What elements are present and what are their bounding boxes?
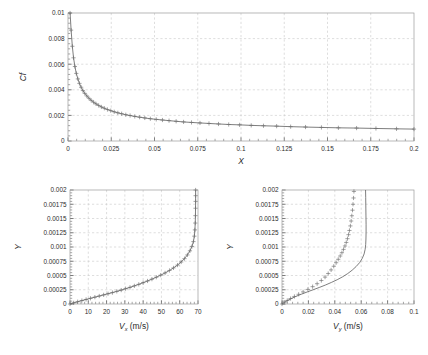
svg-text:20: 20: [103, 308, 111, 315]
svg-text:0.02: 0.02: [302, 308, 315, 315]
svg-text:0.15: 0.15: [321, 145, 334, 152]
chart-y-vs-vy: 00.020.040.060.080.100.000250.00050.0007…: [210, 182, 428, 355]
svg-text:0.00125: 0.00125: [43, 229, 67, 236]
svg-text:Y: Y: [13, 243, 23, 250]
svg-text:Vx (m/s): Vx (m/s): [119, 321, 149, 332]
svg-text:Vy (m/s): Vy (m/s): [333, 321, 363, 332]
figure-container: 00.0250.050.0750.10.1250.150.1750.200.00…: [0, 0, 428, 355]
svg-text:0.00025: 0.00025: [255, 286, 279, 293]
svg-text:0: 0: [68, 308, 72, 315]
svg-text:0.025: 0.025: [103, 145, 119, 152]
svg-text:0.05: 0.05: [148, 145, 161, 152]
svg-text:0.175: 0.175: [363, 145, 379, 152]
svg-text:0.002: 0.002: [51, 186, 67, 193]
svg-text:60: 60: [176, 308, 184, 315]
svg-text:0.06: 0.06: [355, 308, 368, 315]
svg-text:0.04: 0.04: [329, 308, 342, 315]
svg-text:0.0005: 0.0005: [259, 272, 279, 279]
svg-text:70: 70: [194, 308, 202, 315]
svg-text:0.006: 0.006: [49, 61, 65, 68]
svg-text:0: 0: [66, 145, 70, 152]
svg-text:0.00075: 0.00075: [43, 258, 67, 265]
svg-text:50: 50: [158, 308, 166, 315]
svg-text:0.001: 0.001: [263, 243, 279, 250]
svg-text:0: 0: [63, 300, 67, 307]
chart-cf-vs-x: 00.0250.050.0750.10.1250.150.1750.200.00…: [0, 0, 428, 182]
svg-text:0.002: 0.002: [49, 112, 65, 119]
svg-text:0.075: 0.075: [190, 145, 206, 152]
svg-text:Y: Y: [225, 243, 235, 250]
svg-text:0.08: 0.08: [381, 308, 394, 315]
svg-text:X: X: [237, 156, 244, 166]
svg-text:Cf: Cf: [18, 71, 28, 81]
svg-text:0.00025: 0.00025: [43, 286, 67, 293]
svg-text:0.00175: 0.00175: [255, 201, 279, 208]
svg-text:0.002: 0.002: [263, 186, 279, 193]
svg-text:0: 0: [275, 300, 279, 307]
chart-y-vs-vx: 01020304050607000.000250.00050.000750.00…: [0, 182, 212, 355]
svg-text:0.1: 0.1: [237, 145, 246, 152]
svg-text:0.125: 0.125: [276, 145, 292, 152]
svg-text:40: 40: [140, 308, 148, 315]
svg-text:30: 30: [121, 308, 129, 315]
svg-text:0: 0: [61, 137, 65, 144]
svg-text:0.00125: 0.00125: [255, 229, 279, 236]
svg-text:0.00075: 0.00075: [255, 258, 279, 265]
svg-text:0: 0: [280, 308, 284, 315]
svg-text:0.00175: 0.00175: [43, 201, 67, 208]
svg-text:0.0015: 0.0015: [259, 215, 279, 222]
svg-text:0.0005: 0.0005: [47, 272, 67, 279]
svg-text:10: 10: [85, 308, 93, 315]
svg-text:0.001: 0.001: [51, 243, 67, 250]
svg-text:0.1: 0.1: [410, 308, 419, 315]
svg-text:0.004: 0.004: [49, 86, 65, 93]
svg-text:0.2: 0.2: [410, 145, 419, 152]
svg-text:0.008: 0.008: [49, 35, 65, 42]
svg-text:0.0015: 0.0015: [47, 215, 67, 222]
svg-text:0.01: 0.01: [52, 9, 65, 16]
